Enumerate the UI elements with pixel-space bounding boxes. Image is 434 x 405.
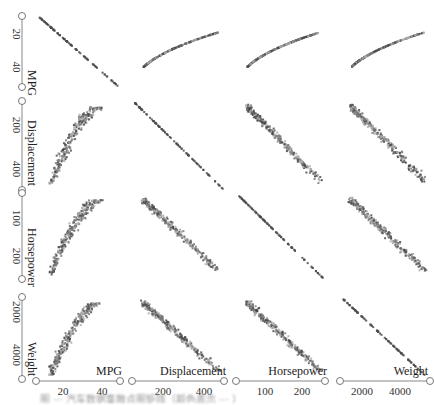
cell-weight-vs-mpg bbox=[48, 302, 101, 376]
y-axis-horsepower: 100 200 Horsepower bbox=[11, 190, 39, 287]
cell-displacement-vs-weight bbox=[349, 104, 426, 183]
y-tick-wt-4000: 4000 bbox=[11, 344, 23, 367]
y-axis-displacement: 200 400 Displacement bbox=[11, 98, 39, 194]
cell-mpg-vs-horsepower bbox=[247, 32, 320, 68]
y-tick-disp-200: 200 bbox=[11, 117, 23, 134]
cell-weight-vs-horsepower bbox=[245, 300, 323, 372]
y-label-displacement: Displacement bbox=[25, 120, 39, 187]
cell-mpg-vs-displacement bbox=[143, 32, 219, 68]
cell-horsepower-vs-mpg bbox=[49, 199, 104, 275]
cell-displacement-vs-displacement bbox=[134, 102, 224, 190]
y-tick-mpg-40: 40 bbox=[11, 62, 23, 74]
y-tick-wt-2000: 2000 bbox=[11, 301, 23, 324]
x-label-horsepower: Horsepower bbox=[268, 364, 327, 378]
cell-weight-vs-displacement bbox=[140, 300, 221, 372]
y-axis-mpg: 20 40 MPG bbox=[11, 13, 39, 97]
y-tick-disp-400: 400 bbox=[11, 161, 23, 178]
x-label-weight: Weight bbox=[394, 364, 429, 378]
y-label-weight: Weight bbox=[25, 342, 39, 377]
cell-horsepower-vs-horsepower bbox=[238, 195, 324, 279]
cell-horsepower-vs-weight bbox=[348, 197, 428, 272]
y-tick-hp-200: 200 bbox=[11, 248, 23, 265]
figure-caption: 图 ··· 汽车数据集散点图矩阵（颜色表示 ··· ） bbox=[40, 391, 420, 403]
x-label-mpg: MPG bbox=[96, 364, 122, 378]
cell-mpg-vs-weight bbox=[351, 32, 425, 68]
cell-mpg-vs-mpg bbox=[39, 17, 119, 87]
x-label-displacement: Displacement bbox=[160, 364, 227, 378]
y-label-mpg: MPG bbox=[25, 70, 39, 96]
y-tick-mpg-20: 20 bbox=[11, 29, 23, 41]
cell-displacement-vs-horsepower bbox=[245, 104, 323, 184]
scatter-cells bbox=[39, 17, 430, 380]
scatterplot-matrix: 20 40 MPG 200 400 Displacement 100 200 H… bbox=[0, 0, 434, 405]
y-tick-hp-100: 100 bbox=[11, 210, 23, 227]
y-axis-weight: 2000 4000 Weight bbox=[11, 294, 39, 383]
cell-displacement-vs-mpg bbox=[48, 106, 102, 184]
cell-horsepower-vs-displacement bbox=[141, 198, 219, 272]
y-label-horsepower: Horsepower bbox=[25, 228, 39, 287]
